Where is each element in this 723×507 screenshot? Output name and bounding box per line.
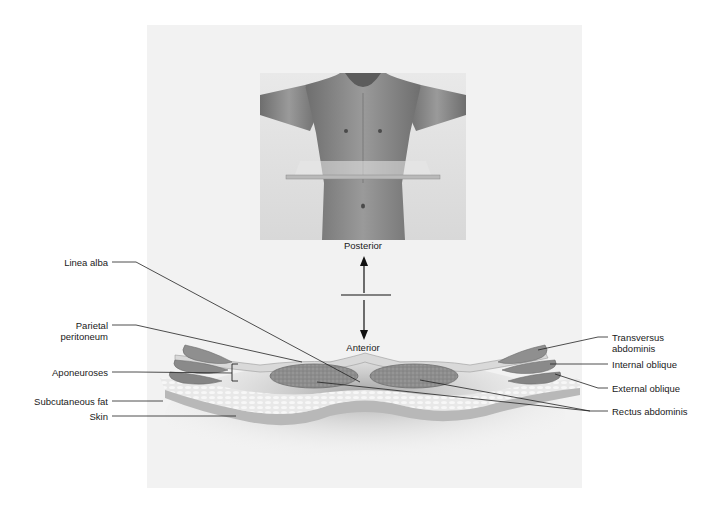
label-parietal-line1: Parietal — [60, 320, 108, 331]
orientation-arrows — [341, 256, 391, 340]
label-aponeuroses: Aponeuroses — [52, 367, 108, 378]
label-parietal-line2: peritoneum — [60, 331, 108, 342]
rectus-left — [270, 364, 358, 388]
label-subcutaneous-fat: Subcutaneous fat — [34, 396, 108, 407]
cross-section-diagram — [0, 0, 723, 507]
label-external-oblique: External oblique — [612, 383, 680, 394]
label-internal-oblique: Internal oblique — [612, 359, 677, 370]
label-linea-alba: Linea alba — [64, 257, 108, 268]
label-transversus-abdominis: Transversus abdominis — [612, 332, 664, 354]
label-transversus-line2: abdominis — [612, 343, 664, 354]
label-rectus-abdominis: Rectus abdominis — [612, 406, 688, 417]
label-parietal-peritoneum: Parietal peritoneum — [60, 320, 108, 342]
label-skin: Skin — [90, 411, 108, 422]
label-transversus-line1: Transversus — [612, 332, 664, 343]
